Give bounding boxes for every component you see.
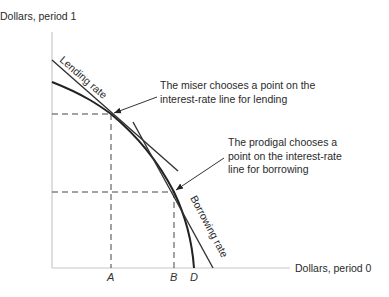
x-axis-label: Dollars, period 0 bbox=[295, 262, 372, 274]
borrowing-rate-label: Borrowing rate bbox=[188, 193, 231, 259]
miser-guides bbox=[52, 114, 111, 268]
prodigal-arrow bbox=[176, 158, 224, 190]
prodigal-annotation-line-3: line for borrowing bbox=[228, 163, 309, 175]
tick-A: A bbox=[106, 271, 114, 283]
tick-B: B bbox=[170, 271, 177, 283]
miser-annotation-line-2: interest-rate line for lending bbox=[160, 93, 287, 105]
prodigal-guides bbox=[52, 192, 174, 268]
borrowing-rate-line bbox=[133, 122, 213, 268]
diagram: Dollars, period 1 Dollars, period 0 Lend… bbox=[0, 0, 389, 297]
y-axis-label: Dollars, period 1 bbox=[0, 10, 77, 22]
lending-rate-line bbox=[52, 60, 178, 171]
tick-D: D bbox=[190, 271, 198, 283]
prodigal-annotation-line-1: The prodigal chooses a bbox=[228, 136, 337, 148]
prodigal-annotation-line-2: point on the interest-rate bbox=[228, 150, 342, 162]
miser-arrow bbox=[114, 97, 157, 113]
lending-rate-label: Lending rate bbox=[58, 53, 110, 100]
miser-annotation-line-1: The miser chooses a point on the bbox=[160, 79, 315, 91]
